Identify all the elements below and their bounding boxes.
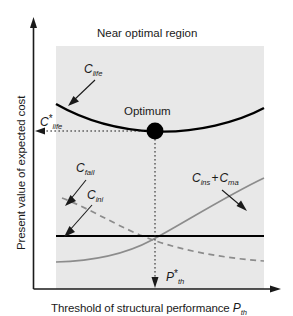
label-c-ins-symbol: C	[192, 171, 201, 185]
label-c-life-star-asterisk: *	[49, 113, 53, 124]
label-c-life-star-sub: life	[53, 122, 63, 131]
x-axis-title-text: Threshold of structural performance	[51, 302, 233, 314]
label-c-ini: Cini	[87, 189, 103, 201]
label-c-ma-symbol: C	[219, 171, 228, 185]
label-p-th-symbol: P	[166, 270, 174, 284]
near-optimal-region-title: Near optimal region	[97, 28, 197, 40]
y-axis-title: Present value of expected cost	[16, 96, 28, 250]
label-c-fail-symbol: C	[76, 161, 85, 175]
label-c-fail-sub: fail	[85, 168, 95, 177]
label-c-ins-plus-c-ma: Cins+Cma	[192, 172, 239, 184]
optimum-point-marker	[147, 123, 164, 140]
x-axis-title: Threshold of structural performance Pth	[51, 302, 247, 316]
optimum-label: Optimum	[124, 106, 171, 118]
label-p-th-star: P*th	[166, 271, 184, 283]
y-axis	[30, 17, 37, 289]
label-c-ini-symbol: C	[87, 188, 96, 202]
figure-container: Near optimal region Optimum Clife C*life…	[0, 0, 293, 316]
label-c-life-star-symbol: C	[40, 115, 49, 129]
x-axis-title-symbol-sub: th	[241, 308, 247, 316]
label-p-th-sub: th	[178, 277, 184, 286]
label-c-life-symbol: C	[84, 62, 93, 76]
label-c-life-star: C*life	[40, 116, 62, 128]
label-c-fail: Cfail	[76, 162, 94, 174]
label-c-ini-sub: ini	[96, 195, 104, 204]
x-axis-title-symbol: P	[233, 301, 241, 315]
label-c-life: Clife	[84, 63, 102, 75]
diagram-canvas	[0, 0, 293, 316]
label-c-life-sub: life	[93, 69, 103, 78]
label-c-ma-sub: ma	[228, 178, 239, 187]
label-c-ins-sub: ins	[201, 178, 211, 187]
